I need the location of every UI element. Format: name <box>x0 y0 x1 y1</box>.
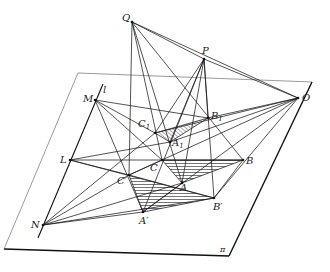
segment-O-C1 <box>155 98 298 133</box>
point-M <box>94 99 97 102</box>
label-P: P <box>202 46 209 56</box>
label-Cp: C′ <box>117 176 127 186</box>
label-L: L <box>60 155 67 165</box>
segment-Q-O <box>132 22 298 98</box>
label-Bp: B′ <box>213 202 223 212</box>
segment-L-A1 <box>70 142 170 160</box>
point-B1 <box>207 117 210 120</box>
label-Ap: A′ <box>139 216 149 226</box>
point-Cp <box>128 174 131 177</box>
label-N: N <box>31 220 40 230</box>
label-B: B <box>246 156 253 166</box>
point-O <box>297 97 300 100</box>
point-Bp <box>213 197 216 200</box>
segment-O-Bp <box>214 98 298 198</box>
point-Q <box>131 21 134 24</box>
segment-M-Ap <box>95 100 143 212</box>
segment-O-A1 <box>170 98 298 142</box>
label-M: M <box>83 94 93 104</box>
point-N <box>42 224 45 227</box>
segment-Q-A <box>132 22 182 183</box>
point-Ap <box>142 211 145 214</box>
point-P <box>203 58 206 61</box>
point-C1 <box>154 132 157 135</box>
segment-N-Ap <box>43 212 143 225</box>
label-C1: C1 <box>138 119 150 131</box>
label-O: O <box>302 93 310 103</box>
segment-Q-P <box>132 22 204 59</box>
line-l-label: l <box>103 85 106 95</box>
segment-Q-B <box>132 22 243 160</box>
label-C: C <box>150 163 158 173</box>
point-A1 <box>169 141 172 144</box>
projective-diagram <box>0 0 330 272</box>
plane-label: π <box>220 246 225 254</box>
label-Q: Q <box>122 13 130 23</box>
plane-pi <box>4 73 312 256</box>
segment-N-Bp <box>43 198 214 225</box>
hatched-triangle <box>162 160 243 183</box>
point-L <box>69 159 72 162</box>
label-A1: A1 <box>172 138 184 150</box>
label-B1: B1 <box>211 111 223 123</box>
label-A: A <box>180 183 187 193</box>
point-B <box>242 159 245 162</box>
point-C <box>161 159 164 162</box>
